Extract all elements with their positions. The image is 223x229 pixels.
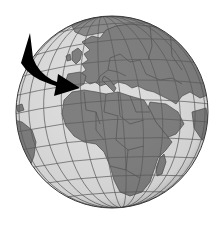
globe-svg: [0, 0, 223, 229]
globe-illustration: [0, 0, 223, 229]
